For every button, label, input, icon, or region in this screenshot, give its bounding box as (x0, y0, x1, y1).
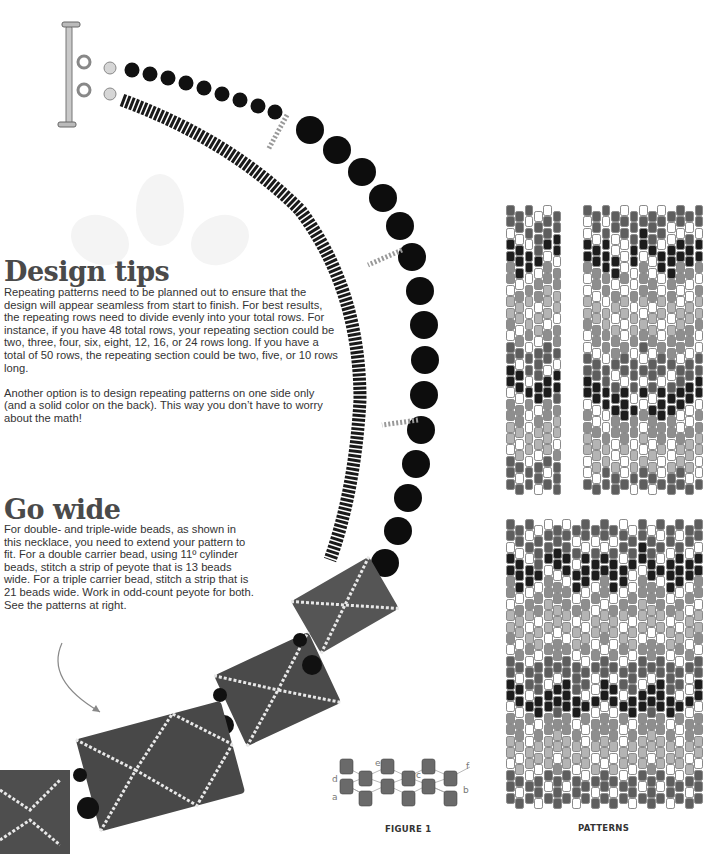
pattern-bead (648, 473, 657, 484)
pattern-bead (591, 639, 600, 650)
pattern-bead (656, 599, 665, 610)
pattern-bead (630, 382, 639, 393)
pattern-bead (553, 787, 562, 798)
go-wide-paragraph: For double- and triple-wide beads, as sh… (4, 523, 256, 611)
pattern-bead (628, 559, 637, 570)
pattern-bead (515, 359, 524, 370)
pattern-bead (647, 753, 656, 764)
pattern-bead (657, 479, 666, 490)
pattern-bead (630, 359, 639, 370)
pattern-bead (506, 587, 515, 598)
pattern-bead (638, 656, 647, 667)
pattern-bead (534, 348, 543, 359)
pattern-bead (628, 719, 637, 730)
pattern-bead (695, 228, 704, 239)
pattern-bead (515, 245, 524, 256)
pattern-bead (572, 627, 581, 638)
pattern-bead (685, 684, 694, 695)
pattern-bead (515, 605, 524, 616)
pattern-bead (602, 376, 611, 387)
pattern-bead (581, 781, 590, 792)
pattern-bead (543, 251, 552, 262)
pattern-bead (544, 701, 553, 712)
pattern-bead (534, 605, 543, 616)
go-wide-body: For double- and triple-wide beads, as sh… (4, 523, 256, 611)
pattern-bead (666, 753, 675, 764)
pattern-bead (583, 239, 592, 250)
pattern-bead (695, 319, 704, 330)
pattern-bead (611, 325, 620, 336)
pattern-bead (620, 444, 629, 455)
pattern-bead (676, 228, 685, 239)
pattern-bead (515, 798, 524, 809)
pattern-bead (638, 713, 647, 724)
pattern-bead (685, 570, 694, 581)
pattern-bead (620, 319, 629, 330)
pattern-bead (619, 770, 628, 781)
pattern-bead (628, 536, 637, 547)
pattern-bead (657, 251, 666, 262)
pattern-bead (685, 427, 694, 438)
pattern-bead (639, 251, 648, 262)
pattern-bead (525, 644, 534, 655)
pattern-bead (619, 758, 628, 769)
pattern-bead (525, 273, 534, 284)
pattern-bead (647, 582, 656, 593)
pattern-bead (591, 684, 600, 695)
pattern-bead (657, 365, 666, 376)
pattern-bead (544, 667, 553, 678)
pattern-bead (581, 542, 590, 553)
pattern-bead (685, 650, 694, 661)
pattern-bead (515, 393, 524, 404)
pattern-bead (592, 279, 601, 290)
pattern-bead (543, 444, 552, 455)
pattern-bead (534, 753, 543, 764)
pattern-bead (666, 605, 675, 616)
pattern-bead (592, 291, 601, 302)
pattern-bead (630, 484, 639, 495)
pattern-bead (553, 313, 562, 324)
pattern-bead (600, 724, 609, 735)
pattern-double-carrier (583, 205, 704, 496)
pattern-bead (639, 262, 648, 273)
pattern-bead (657, 422, 666, 433)
pattern-bead (620, 205, 629, 216)
pattern-bead (694, 610, 703, 621)
pattern-bead (685, 302, 694, 313)
pattern-bead (562, 736, 571, 747)
pattern-bead (583, 410, 592, 421)
pattern-bead (553, 707, 562, 718)
pattern-bead (543, 262, 552, 273)
pattern-bead (657, 228, 666, 239)
pattern-bead (572, 570, 581, 581)
pattern-bead (583, 433, 592, 444)
pattern-bead (695, 456, 704, 467)
pattern-bead (583, 216, 592, 227)
pattern-bead (534, 313, 543, 324)
pattern-bead (525, 656, 534, 667)
pattern-bead (647, 684, 656, 695)
pattern-bead (525, 205, 534, 216)
pattern-bead (647, 536, 656, 547)
pattern-bead (591, 605, 600, 616)
design-tips-paragraph-2: Another option is to design repeating pa… (4, 387, 339, 425)
pattern-bead (619, 519, 628, 530)
pattern-bead (619, 644, 628, 655)
pattern-bead (694, 793, 703, 804)
pattern-bead (506, 690, 515, 701)
pattern-bead (600, 519, 609, 530)
pattern-bead (611, 473, 620, 484)
pattern-bead (544, 793, 553, 804)
pattern-bead (525, 599, 534, 610)
pattern-bead (628, 753, 637, 764)
pattern-bead (639, 422, 648, 433)
pattern-bead (648, 450, 657, 461)
pattern-bead (602, 365, 611, 376)
pattern-bead (506, 444, 515, 455)
pattern-bead (609, 719, 618, 730)
pattern-bead (685, 405, 694, 416)
pattern-bead (506, 747, 515, 758)
pattern-bead (695, 410, 704, 421)
pattern-bead (534, 627, 543, 638)
pattern-bead (648, 256, 657, 267)
